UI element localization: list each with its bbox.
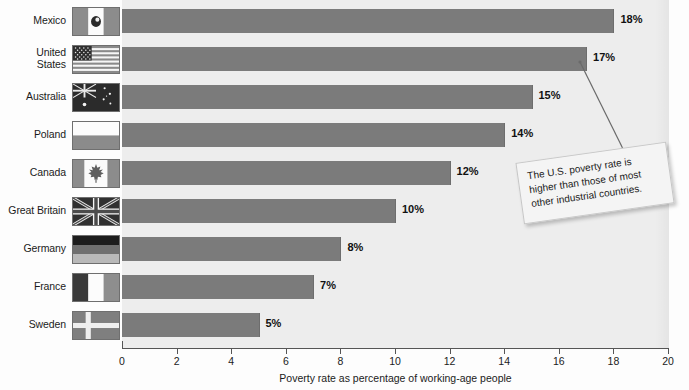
- bar-row: 7%: [122, 268, 669, 306]
- country-name: Mexico: [33, 15, 66, 27]
- x-axis-tick: [340, 348, 341, 354]
- bar-value-label: 14%: [511, 127, 533, 139]
- country-name: United States: [36, 47, 66, 71]
- bar: [122, 161, 451, 185]
- bar-row: 14%: [122, 116, 669, 154]
- x-axis-tick-label: 14: [498, 355, 510, 367]
- x-axis-tick: [450, 348, 451, 354]
- x-axis-tick-label: 6: [283, 355, 289, 367]
- x-axis-tick: [613, 348, 614, 354]
- x-axis-tick: [559, 348, 560, 354]
- bar-row: 18%: [122, 2, 669, 40]
- x-axis-tick: [286, 348, 287, 354]
- x-axis-tick-label: 0: [119, 355, 125, 367]
- bar: [122, 275, 314, 299]
- country-name: Canada: [30, 167, 66, 179]
- flag-germany-icon: [72, 235, 120, 264]
- category-axis-labels: Mexico United States: [0, 0, 122, 348]
- x-axis-tick-label: 2: [174, 355, 180, 367]
- x-axis-origin-cap: [122, 341, 123, 349]
- x-axis-tick-label: 12: [444, 355, 456, 367]
- chart-figure: Mexico United States: [0, 0, 689, 390]
- x-axis-tick: [395, 348, 396, 354]
- flag-poland-icon: [72, 121, 120, 150]
- x-axis-tick-label: 8: [337, 355, 343, 367]
- bar: [122, 123, 505, 147]
- bar-value-label: 17%: [593, 51, 615, 63]
- category-label-mexico: Mexico: [0, 2, 120, 40]
- country-name: Sweden: [29, 319, 66, 331]
- category-label-united-states: United States: [0, 40, 120, 78]
- x-axis-tick-label: 10: [389, 355, 401, 367]
- bar-value-label: 10%: [402, 203, 424, 215]
- bar-value-label: 5%: [266, 317, 282, 329]
- flag-mexico-icon: [72, 7, 120, 36]
- bar-value-label: 7%: [320, 279, 336, 291]
- bar-row: 15%: [122, 78, 669, 116]
- country-name: Great Britain: [8, 205, 66, 217]
- flag-sweden-icon: [72, 311, 120, 340]
- category-label-canada: Canada: [0, 154, 120, 192]
- x-axis-tick: [231, 348, 232, 354]
- bar: [122, 85, 533, 109]
- category-label-australia: Australia: [0, 78, 120, 116]
- category-label-great-britain: Great Britain: [0, 192, 120, 230]
- bar-value-label: 15%: [539, 89, 561, 101]
- flag-france-icon: [72, 273, 120, 302]
- x-axis-title: Poverty rate as percentage of working-ag…: [122, 372, 669, 384]
- flag-canada-icon: [72, 159, 120, 188]
- bar-row: 17%: [122, 40, 669, 78]
- flag-united-states-icon: [72, 45, 120, 74]
- x-axis-tick-label: 4: [228, 355, 234, 367]
- bar: [122, 9, 614, 33]
- country-name: Australia: [26, 91, 66, 103]
- x-axis-tick-label: 16: [553, 355, 565, 367]
- bar-value-label: 12%: [457, 165, 479, 177]
- flag-great-britain-icon: [72, 197, 120, 226]
- category-label-poland: Poland: [0, 116, 120, 154]
- bar-value-label: 18%: [620, 13, 642, 25]
- bar: [122, 199, 396, 223]
- bar: [122, 47, 587, 71]
- bar-value-label: 8%: [347, 241, 363, 253]
- country-name: France: [34, 281, 66, 293]
- bar-row: 5%: [122, 306, 669, 344]
- x-axis-tick-label: 20: [662, 355, 674, 367]
- x-axis-tick: [504, 348, 505, 354]
- bar: [122, 313, 260, 337]
- x-axis-tick-label: 18: [608, 355, 620, 367]
- x-axis-tick: [177, 348, 178, 354]
- x-axis-tick: [668, 348, 669, 354]
- category-label-france: France: [0, 268, 120, 306]
- bar: [122, 237, 341, 261]
- bar-row: 8%: [122, 230, 669, 268]
- country-name: Poland: [34, 129, 66, 141]
- category-label-sweden: Sweden: [0, 306, 120, 344]
- flag-australia-icon: [72, 83, 120, 112]
- category-label-germany: Germany: [0, 230, 120, 268]
- callout-text: The U.S. poverty rate is higher than tho…: [526, 151, 663, 212]
- country-name: Germany: [24, 243, 66, 255]
